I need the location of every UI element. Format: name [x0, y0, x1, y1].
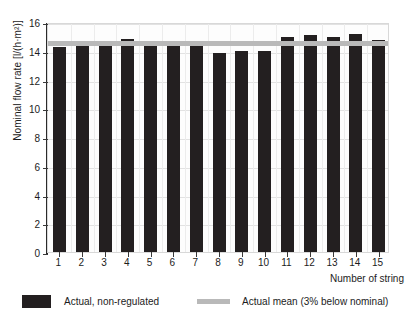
vertical-gridline [116, 24, 117, 252]
vertical-gridline [139, 24, 140, 252]
legend-item-actual: Actual, non-regulated [22, 295, 159, 308]
y-tick [43, 110, 48, 111]
y-tick [43, 139, 48, 140]
legend-line-swatch [197, 299, 230, 304]
vertical-gridline [71, 24, 72, 252]
bar [304, 35, 317, 252]
vertical-gridline [253, 24, 254, 252]
y-tick-label: 2 [10, 220, 40, 230]
bar [235, 51, 248, 252]
vertical-gridline [299, 24, 300, 252]
y-tick-label: 14 [10, 48, 40, 58]
y-tick-label: 4 [10, 192, 40, 202]
y-tick-label: 16 [10, 19, 40, 29]
bar [53, 47, 66, 252]
vertical-gridline [162, 24, 163, 252]
chart-legend: Actual, non-regulated Actual mean (3% be… [22, 290, 402, 312]
bar [121, 39, 134, 252]
y-tick [43, 53, 48, 54]
bar [327, 37, 340, 252]
bar [258, 51, 271, 252]
legend-bar-swatch [22, 295, 51, 308]
bar [167, 44, 180, 252]
bar [144, 43, 157, 252]
y-tick-label: 0 [10, 249, 40, 259]
vertical-gridline [208, 24, 209, 252]
y-tick-label: 8 [10, 134, 40, 144]
bar [281, 37, 294, 252]
vertical-gridline [367, 24, 368, 252]
vertical-gridline [185, 24, 186, 252]
y-tick-label: 6 [10, 163, 40, 173]
y-tick [43, 82, 48, 83]
y-tick-label: 12 [10, 77, 40, 87]
y-tick [43, 24, 48, 25]
bar [76, 46, 89, 252]
vertical-gridline [230, 24, 231, 252]
vertical-gridline [94, 24, 95, 252]
vertical-gridline [322, 24, 323, 252]
legend-label-actual: Actual, non-regulated [64, 296, 159, 307]
bar [99, 43, 112, 252]
vertical-gridline [276, 24, 277, 252]
bar [190, 46, 203, 252]
plot-area: 0246810121416 [47, 23, 389, 253]
y-tick [43, 254, 48, 255]
legend-item-mean: Actual mean (3% below nominal) [197, 296, 388, 307]
mean-reference-line [48, 41, 388, 46]
bar [349, 34, 362, 253]
bar [213, 53, 226, 252]
bar [372, 40, 385, 252]
y-tick [43, 225, 48, 226]
x-tick-label: 15 [365, 258, 391, 268]
legend-label-mean: Actual mean (3% below nominal) [242, 296, 388, 307]
y-tick-label: 10 [10, 105, 40, 115]
vertical-gridline [344, 24, 345, 252]
y-tick [43, 197, 48, 198]
gridline [48, 24, 388, 25]
y-tick [43, 168, 48, 169]
chart-figure: Nominal flow rate [l/(h·m²)] 02468101214… [0, 0, 416, 319]
x-axis-title: Number of string [330, 273, 404, 284]
